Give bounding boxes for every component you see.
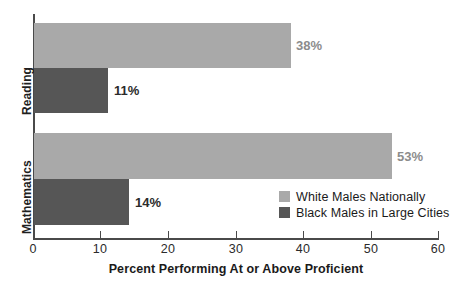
x-axis-tick-label-50: 50 (351, 242, 391, 256)
bar-value-reading-black-males: 11% (114, 83, 139, 98)
bar-reading-white-males (34, 23, 291, 68)
category-label-reading: Reading (20, 67, 34, 115)
x-axis-tick-label-40: 40 (283, 242, 323, 256)
x-axis-tick-50 (371, 231, 372, 239)
bar-value-reading-white-males: 38% (296, 38, 322, 53)
x-axis-tick-label-30: 30 (216, 242, 256, 256)
bar-chart: 0 10 20 30 40 50 60 Reading Mathematics … (0, 0, 468, 291)
x-axis-tick-30 (236, 231, 237, 239)
x-axis-tick-label-10: 10 (80, 242, 120, 256)
x-axis-title: Percent Performing At or Above Proficien… (33, 262, 439, 276)
legend: White Males Nationally Black Males in La… (279, 189, 449, 221)
x-axis-tick-10 (100, 231, 101, 239)
x-axis-tick-40 (303, 231, 304, 239)
legend-swatch-icon-black-males (279, 207, 290, 218)
legend-item-white-males: White Males Nationally (279, 189, 449, 204)
legend-item-black-males: Black Males in Large Cities (279, 205, 449, 220)
bar-reading-black-males (34, 68, 108, 113)
bar-value-mathematics-white-males: 53% (397, 149, 423, 164)
legend-label-black-males: Black Males in Large Cities (296, 206, 449, 220)
bar-mathematics-white-males (34, 133, 392, 179)
x-axis-tick-label-0: 0 (13, 242, 53, 256)
legend-swatch-icon-white-males (279, 191, 290, 202)
bar-value-mathematics-black-males: 14% (135, 195, 161, 210)
x-axis-tick-label-20: 20 (148, 242, 188, 256)
x-axis-tick-label-60: 60 (418, 242, 458, 256)
legend-label-white-males: White Males Nationally (296, 190, 425, 204)
x-axis-tick-60 (438, 231, 439, 239)
x-axis-tick-20 (168, 231, 169, 239)
category-label-mathematics: Mathematics (20, 160, 34, 234)
bar-mathematics-black-males (34, 179, 129, 225)
